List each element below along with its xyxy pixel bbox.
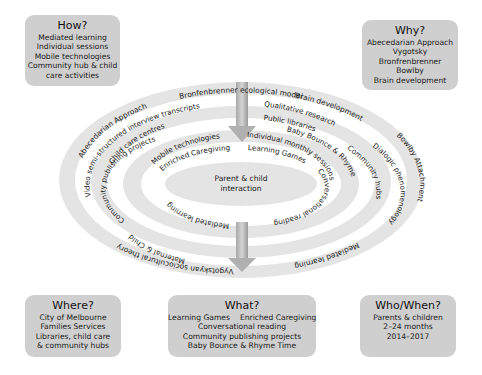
- center-label-line1: Parent & child: [214, 174, 267, 183]
- ecological-ring-diagram: Parent & child interaction Bronfenbrenne…: [0, 0, 482, 375]
- center-label-line2: interaction: [220, 184, 261, 193]
